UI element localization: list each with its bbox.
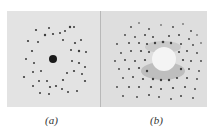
caption-a: (a) (45, 114, 58, 126)
panel-a-pattern (7, 11, 100, 107)
diffraction-figure (7, 11, 207, 107)
laue-pattern-b (101, 11, 207, 107)
caption-b: (b) (150, 114, 163, 126)
panel-b-pattern (101, 11, 207, 107)
laue-pattern-a (7, 11, 100, 107)
